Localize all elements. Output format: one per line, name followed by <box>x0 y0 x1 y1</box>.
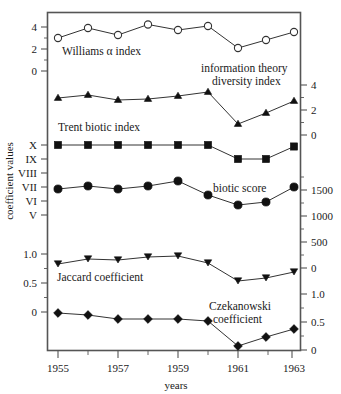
left-tick-label: X <box>29 139 37 151</box>
right-tick-label: 4 <box>311 79 317 91</box>
data-point <box>262 333 271 342</box>
data-point <box>144 141 151 148</box>
series-jaccard-coefficient: Jaccard coefficient <box>54 253 297 284</box>
series-label-jaccard-coefficient: Jaccard coefficient <box>57 271 144 283</box>
series-label-czekanowski-line2: coefficient <box>213 313 263 325</box>
data-point <box>290 325 299 334</box>
series-label-williams-alpha-index: Williams α index <box>62 45 141 57</box>
right-tick-label: 0 <box>311 262 317 274</box>
y-axis-title: coefficient values <box>3 142 15 220</box>
right-tick-label: 0 <box>311 344 317 356</box>
left-tick-label: VI <box>25 195 37 207</box>
left-tick-label: 2 <box>32 43 38 55</box>
x-tick-label: 1957 <box>107 362 130 374</box>
left-tick-label: 0 <box>32 65 38 77</box>
data-point <box>174 141 181 148</box>
right-tick-label: 0.5 <box>311 316 325 328</box>
x-tick-label: 1955 <box>47 362 70 374</box>
data-point <box>174 315 183 324</box>
data-point <box>144 182 152 190</box>
left-tick-label: 4 <box>32 21 38 33</box>
data-point <box>84 182 92 190</box>
data-point <box>290 269 297 275</box>
data-point <box>234 155 241 162</box>
data-point <box>204 141 211 148</box>
series-biotic-score: biotic score <box>54 177 298 209</box>
data-point <box>262 155 269 162</box>
data-point <box>84 141 91 148</box>
series-label-information-theory-line1: information theory <box>201 62 288 75</box>
x-tick-label: 1963 <box>283 362 306 374</box>
series-label-trent-biotic-index: Trent biotic index <box>58 121 140 133</box>
data-point <box>84 24 91 31</box>
data-point <box>114 141 121 148</box>
series-label-information-theory-line2: diversity index <box>212 75 281 88</box>
series-label-biotic-score: biotic score <box>213 182 266 194</box>
left-tick-label: 1.0 <box>23 248 37 260</box>
data-point <box>144 315 153 324</box>
left-tick-label: VII <box>22 181 38 193</box>
data-point <box>54 34 61 41</box>
data-point <box>114 185 122 193</box>
right-tick-label: 500 <box>311 236 328 248</box>
x-axis-title: years <box>164 379 187 391</box>
data-point <box>174 177 182 185</box>
data-point <box>262 36 269 43</box>
data-point <box>204 88 211 94</box>
right-axis-tick-labels: 4 2 0 1500 1000 500 0 1.0 0.5 0 <box>311 79 334 356</box>
data-point <box>174 26 181 33</box>
data-point <box>204 191 212 199</box>
data-point <box>234 44 241 51</box>
series-czekanowski-coefficient: Czekanowski coefficient <box>54 300 299 350</box>
data-point <box>114 31 121 38</box>
data-point <box>290 28 297 35</box>
data-point <box>84 91 91 97</box>
right-tick-label: 0 <box>311 129 317 141</box>
series-information-theory-diversity-index: information theory diversity index <box>54 62 297 126</box>
data-point <box>204 22 211 29</box>
x-tick-label: 1959 <box>167 362 190 374</box>
right-tick-label: 1500 <box>311 184 334 196</box>
series-trent-biotic-index: Trent biotic index <box>54 121 297 163</box>
chart-figure: 4 2 0 X IX VIII VII VI V 1.0 0.5 0 coeff… <box>0 0 341 394</box>
data-point <box>144 21 151 28</box>
left-tick-label: IX <box>25 153 37 165</box>
data-point <box>262 198 270 206</box>
data-point <box>54 309 63 318</box>
right-tick-label: 2 <box>311 104 317 116</box>
data-point <box>84 311 93 320</box>
x-tick-label: 1961 <box>227 362 249 374</box>
left-tick-label: 0 <box>32 306 38 318</box>
right-tick-label: 1.0 <box>311 288 325 300</box>
data-point <box>114 315 123 324</box>
chart-svg: 4 2 0 X IX VIII VII VI V 1.0 0.5 0 coeff… <box>0 0 341 394</box>
x-axis-tick-labels: 1955 1957 1959 1961 1963 <box>47 362 306 374</box>
left-tick-label: 0.5 <box>23 277 37 289</box>
right-axis-ticks <box>301 85 308 350</box>
data-point <box>234 201 242 209</box>
data-point <box>290 97 297 103</box>
data-point <box>54 185 62 193</box>
left-tick-label: VIII <box>18 167 37 179</box>
left-axis-tick-labels: 4 2 0 X IX VIII VII VI V 1.0 0.5 0 <box>18 21 37 318</box>
right-tick-label: 1000 <box>311 210 334 222</box>
data-point <box>54 141 61 148</box>
data-point <box>290 143 297 150</box>
left-tick-label: V <box>29 209 37 221</box>
x-axis-ticks <box>58 351 292 359</box>
series-label-czekanowski-line1: Czekanowski <box>209 300 271 312</box>
data-point <box>290 183 298 191</box>
left-axis-ticks <box>41 27 48 312</box>
series-williams-alpha-index: Williams α index <box>54 21 297 57</box>
